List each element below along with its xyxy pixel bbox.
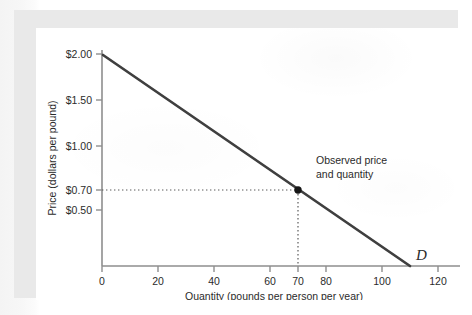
y-tick-label-0-70: $0.70: [66, 184, 92, 196]
x-tick-label-80: 80: [320, 275, 332, 287]
figure-card: $2.00 $1.50 $1.00 $0.70 $0.50 0 20 40 60: [36, 28, 464, 300]
demand-curve-label: D: [415, 247, 427, 263]
x-axis-title: Quantity (pounds per person per year): [185, 290, 363, 300]
demand-curve-chart: $2.00 $1.50 $1.00 $0.70 $0.50 0 20 40 60: [36, 28, 464, 300]
x-tick-label-0: 0: [99, 275, 105, 287]
x-tick-label-20: 20: [152, 275, 164, 287]
y-tick-label-1-00: $1.00: [66, 140, 92, 152]
x-tick-label-100: 100: [373, 275, 391, 287]
x-tick-label-60: 60: [264, 275, 276, 287]
screenshot-root: $2.00 $1.50 $1.00 $0.70 $0.50 0 20 40 60: [0, 0, 472, 315]
x-tick-label-70: 70: [292, 275, 304, 287]
y-tick-label-0-50: $0.50: [66, 204, 92, 216]
y-axis-title: Price (dollars per pound): [46, 101, 58, 216]
x-tick-label-120: 120: [429, 275, 447, 287]
x-tick-label-40: 40: [208, 275, 220, 287]
observed-annotation-line-2: and quantity: [316, 168, 374, 180]
y-tick-label-1-50: $1.50: [66, 94, 92, 106]
y-tick-label-2-00: $2.00: [66, 48, 92, 60]
observed-annotation-line-1: Observed price: [316, 154, 387, 166]
figure-frame: $2.00 $1.50 $1.00 $0.70 $0.50 0 20 40 60: [14, 10, 458, 298]
observed-point-marker: [294, 186, 301, 193]
